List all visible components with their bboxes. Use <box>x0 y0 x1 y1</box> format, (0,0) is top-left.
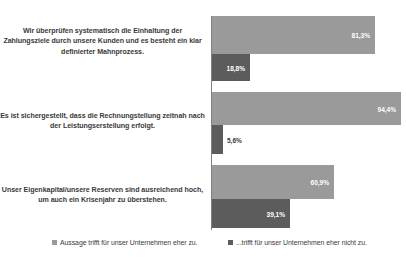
category-label-1: Es ist sichergestellt, dass die Rechnung… <box>0 111 205 132</box>
bar-series1-cat2[interactable]: 39,1% <box>212 199 290 228</box>
bar-value-series1-cat0: 18,8% <box>227 64 245 71</box>
bar-series0-cat2[interactable]: 60,9% <box>212 165 334 199</box>
bar-value-series1-cat2: 39,1% <box>267 210 285 217</box>
legend-label-1: ...trifft für unser Unternehmen eher nic… <box>236 239 367 246</box>
legend-item-0[interactable]: Aussage trifft für unser Unternehmen ehe… <box>52 239 197 246</box>
bar-value-series0-cat1: 94,4% <box>378 105 396 112</box>
plot-area: 81,3% 18,8% 94,4% 5,6% 60,9% 39,1% <box>211 8 406 230</box>
bar-series0-cat0[interactable]: 81,3% <box>212 16 375 54</box>
category-axis-labels: Wir überprüfen systematisch die Einhaltu… <box>0 8 207 230</box>
legend-item-1[interactable]: ...trifft für unser Unternehmen eher nic… <box>228 239 367 246</box>
bar-chart: Wir überprüfen systematisch die Einhaltu… <box>0 0 406 259</box>
legend-label-0: Aussage trifft für unser Unternehmen ehe… <box>60 239 197 246</box>
bar-value-series0-cat0: 81,3% <box>352 32 370 39</box>
bar-series0-cat1[interactable]: 94,4% <box>212 92 401 125</box>
bar-value-series0-cat2: 60,9% <box>311 179 329 186</box>
bar-value-series1-cat1: 5,6% <box>227 136 242 143</box>
category-label-2: Unser Eigenkapital/unsere Reserven sind … <box>0 185 205 206</box>
category-label-0: Wir überprüfen systematisch die Einhaltu… <box>0 26 205 57</box>
bar-series1-cat1[interactable]: 5,6% <box>212 125 223 154</box>
legend-swatch-icon-0 <box>52 240 57 245</box>
chart-legend: Aussage trifft für unser Unternehmen ehe… <box>0 237 406 253</box>
legend-swatch-icon-1 <box>228 240 233 245</box>
bar-series1-cat0[interactable]: 18,8% <box>212 54 250 81</box>
